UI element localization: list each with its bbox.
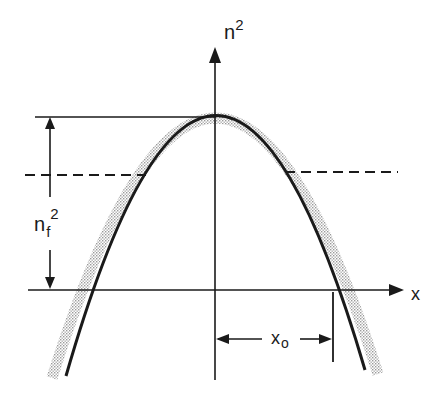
xo-dimension-arrow	[216, 292, 333, 362]
up-arrowhead-icon	[45, 117, 55, 129]
right-arrowhead-icon	[319, 334, 332, 344]
xo-label: xo	[271, 328, 289, 351]
left-arrowhead-icon	[216, 334, 229, 344]
x-axis-arrowhead-icon	[389, 284, 404, 296]
y-axis-arrowhead-icon	[209, 47, 221, 63]
horizontal-axis-label: x	[411, 284, 420, 304]
nf2-dimension-arrow	[45, 117, 55, 289]
down-arrowhead-icon	[45, 277, 55, 289]
vertical-axis-label: n2	[224, 16, 243, 43]
vertical-axis	[209, 47, 221, 380]
profile-diagram: n2 x nf2 xo	[0, 0, 446, 406]
diagram-canvas: n2 x nf2 xo	[0, 0, 446, 406]
nf2-label: nf2	[34, 205, 59, 240]
